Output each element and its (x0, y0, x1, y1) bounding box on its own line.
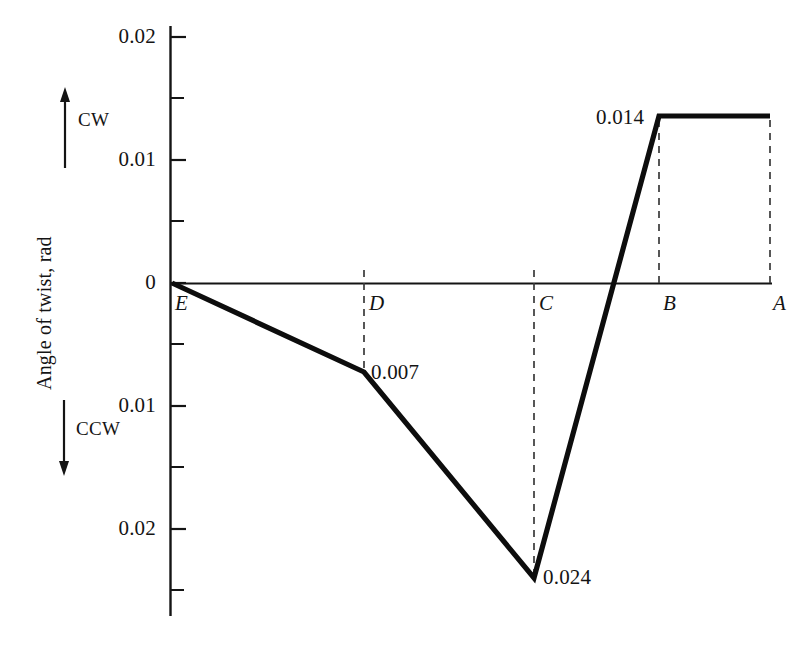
station-label-B: B (663, 293, 676, 314)
station-dashed-leaders (364, 118, 770, 578)
y-axis-title: Angle of twist, rad (34, 236, 54, 390)
station-label-E: E (175, 293, 188, 314)
y-axis-minor-ticks (170, 98, 184, 590)
y-tick-label-neg-0.01: 0.01 (96, 395, 156, 416)
angle-of-twist-plot (0, 0, 791, 647)
ccw-label: CCW (76, 419, 120, 438)
value-label-C: 0.024 (543, 567, 591, 588)
cw-label: CW (78, 110, 109, 129)
station-label-C: C (539, 293, 553, 314)
station-label-D: D (369, 293, 384, 314)
cw-arrow-icon (60, 87, 70, 168)
y-tick-label-zero: 0 (96, 272, 156, 293)
value-label-D: 0.007 (371, 362, 419, 383)
y-tick-label-pos-0.01: 0.01 (96, 149, 156, 170)
station-label-A: A (773, 293, 786, 314)
ccw-arrow-icon (59, 400, 69, 476)
y-tick-label-pos-0.02: 0.02 (96, 26, 156, 47)
value-label-B: 0.014 (596, 107, 644, 128)
twist-diagram-figure: 0.02 0.01 0 0.01 0.02 Angle of twist, ra… (0, 0, 791, 647)
twist-curve (172, 116, 770, 578)
y-tick-label-neg-0.02: 0.02 (96, 518, 156, 539)
